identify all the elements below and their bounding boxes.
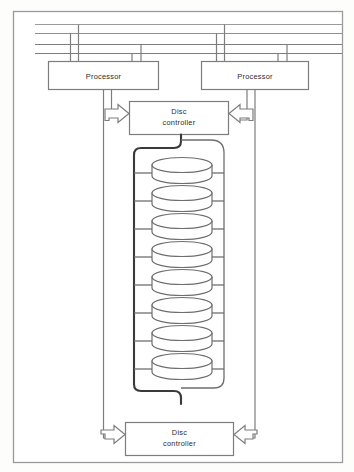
disc-controller-bottom-label-line1: Disc <box>172 428 187 437</box>
disc-5-top <box>152 270 212 285</box>
disc-controller-bottom-label-line2: controller <box>163 439 196 448</box>
disc-controller-top[interactable]: Disc controller <box>130 102 229 135</box>
figure-canvas: Processor Processor Disc controller <box>0 0 354 472</box>
processor-left[interactable]: Processor <box>49 62 159 90</box>
disc-controller-top-label-line2: controller <box>163 118 196 127</box>
processor-left-label: Processor <box>86 72 122 81</box>
disc-6-top <box>152 298 212 313</box>
disc-2-top <box>152 186 212 201</box>
disc-3-top <box>152 214 212 229</box>
disc-8-top <box>152 354 212 369</box>
disc-controller-top-label-line1: Disc <box>171 107 186 116</box>
processor-right[interactable]: Processor <box>202 62 309 90</box>
block-diagram: Processor Processor Disc controller <box>0 0 354 472</box>
disc-controller-bottom[interactable]: Disc controller <box>126 423 234 456</box>
disc-4-top <box>152 242 212 257</box>
disc-7-top <box>152 326 212 341</box>
disc-1-top <box>152 158 212 173</box>
processor-right-label: Processor <box>237 72 273 81</box>
